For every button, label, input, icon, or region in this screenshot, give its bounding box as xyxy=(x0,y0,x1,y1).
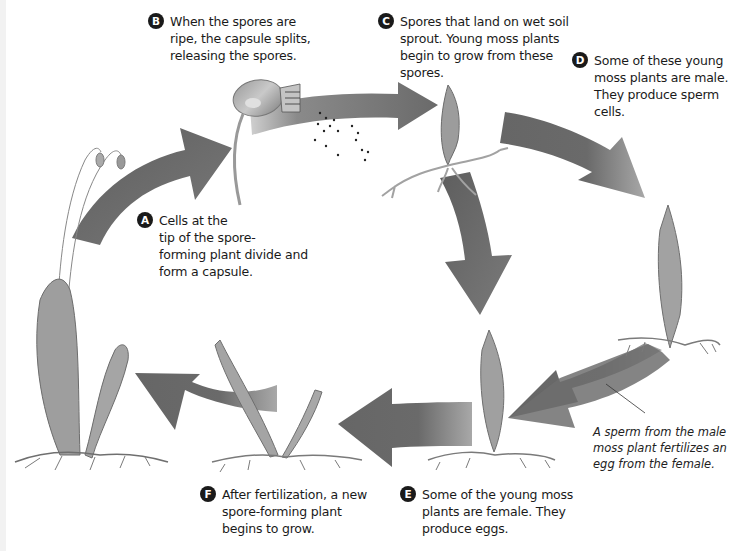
step-d-line-3: They produce sperm xyxy=(572,86,738,103)
moss-life-cycle-diagram: B When the spores are ripe, the capsule … xyxy=(0,0,738,551)
step-f-line-3: begins to grow. xyxy=(200,520,380,537)
step-c-line-4: spores. xyxy=(378,64,578,81)
step-b-line-1: When the spores are xyxy=(148,13,348,30)
step-c-line-3: begin to grow from these xyxy=(378,47,578,64)
step-c-badge: C xyxy=(378,13,394,29)
step-f-line-1: After fertilization, a new xyxy=(200,486,380,503)
annotation-line-3: egg from the female. xyxy=(593,456,738,472)
step-b-badge: B xyxy=(148,13,164,29)
step-e-badge: E xyxy=(400,486,416,502)
step-e-line-1: Some of the young moss xyxy=(400,486,580,503)
step-b-line-3: releasing the spores. xyxy=(148,47,348,64)
step-c-line-1: Spores that land on wet soil xyxy=(378,13,578,30)
arrow-c-to-d xyxy=(500,112,645,198)
fertilization-annotation: A sperm from the male moss plant fertili… xyxy=(593,424,738,472)
step-b-line-2: ripe, the capsule splits, xyxy=(148,30,348,47)
step-b-caption: B When the spores are ripe, the capsule … xyxy=(148,13,348,64)
spore-forming-plant-illustration xyxy=(15,148,168,470)
step-d-caption: D Some of these young moss plants are ma… xyxy=(572,52,738,120)
step-a-caption: A Cells at the tip of the spore- forming… xyxy=(137,212,317,280)
step-c-line-2: sprout. Young moss plants xyxy=(378,30,578,47)
step-d-line-1: Some of these young xyxy=(572,52,738,69)
arrow-e-to-f xyxy=(338,388,472,467)
step-a-badge: A xyxy=(137,212,153,228)
step-f-badge: F xyxy=(200,486,216,502)
step-a-line-4: form a capsule. xyxy=(137,263,317,280)
step-a-line-3: forming plant divide and xyxy=(137,246,317,263)
annotation-line-1: A sperm from the male xyxy=(593,424,738,440)
male-moss-plant-illustration xyxy=(618,205,720,356)
annotation-line-2: moss plant fertilizes an xyxy=(593,440,738,456)
step-c-caption: C Spores that land on wet soil sprout. Y… xyxy=(378,13,578,81)
step-d-badge: D xyxy=(572,52,588,68)
step-f-line-2: spore-forming plant xyxy=(200,503,380,520)
step-d-line-4: cells. xyxy=(572,103,738,120)
step-a-line-1: Cells at the xyxy=(137,212,317,229)
step-e-caption: E Some of the young moss plants are fema… xyxy=(400,486,580,537)
arrow-d-to-e xyxy=(508,343,670,428)
step-a-line-2: tip of the spore- xyxy=(137,229,317,246)
step-d-line-2: moss plants are male. xyxy=(572,69,738,86)
step-f-caption: F After fertilization, a new spore-formi… xyxy=(200,486,380,537)
step-e-line-3: produce eggs. xyxy=(400,520,580,537)
arrow-c-to-e xyxy=(440,172,512,315)
step-e-line-2: plants are female. They xyxy=(400,503,580,520)
